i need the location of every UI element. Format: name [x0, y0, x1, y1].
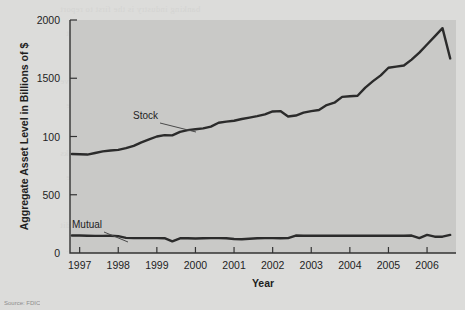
- y-axis-tick-label: 1500: [37, 72, 61, 84]
- y-axis-tick-label: 100: [42, 131, 60, 143]
- x-axis-tick-label: 1999: [145, 259, 169, 271]
- x-axis-tick-label: 2006: [415, 259, 439, 271]
- series-annotation-mutual: Mutual: [72, 219, 102, 230]
- source-note: Source: FDIC: [4, 300, 40, 309]
- x-axis-tick-label: 2003: [300, 259, 324, 271]
- series-annotation-stock: Stock: [133, 110, 159, 121]
- x-axis-tick-label: 2004: [338, 259, 362, 271]
- figure-container: banking industry is the first to reportm…: [0, 0, 465, 310]
- y-axis-tick-label: 0: [54, 247, 60, 259]
- x-axis-tick-label: 1997: [68, 259, 92, 271]
- plot-area: [70, 20, 456, 253]
- x-axis-tick-label: 1998: [107, 259, 131, 271]
- x-axis-title: Year: [252, 277, 274, 289]
- x-axis-tick-label: 2005: [377, 259, 401, 271]
- y-axis-title: Aggregate Asset Level in Billions of $: [18, 43, 30, 231]
- y-axis-tick-label: 500: [42, 189, 60, 201]
- y-axis-tick-label: 2000: [37, 14, 61, 26]
- x-axis-tick-label: 2000: [184, 259, 208, 271]
- line-chart: 0500100150020001997199819992000200120022…: [0, 0, 465, 310]
- x-axis-tick-label: 2002: [261, 259, 285, 271]
- x-axis-tick-label: 2001: [222, 259, 246, 271]
